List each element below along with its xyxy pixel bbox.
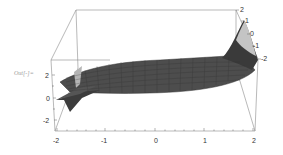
x-tick-label: 0 xyxy=(154,137,158,144)
x-tick-label: -2 xyxy=(53,137,59,144)
z-tick-label: -2 xyxy=(43,117,49,124)
x-tick-label: -1 xyxy=(101,137,107,144)
z-axis-ticks xyxy=(52,75,57,120)
x-tick-label: 2 xyxy=(252,137,256,144)
surface xyxy=(56,20,258,112)
plot-3d[interactable] xyxy=(0,0,283,155)
z-tick-label: 2 xyxy=(45,72,49,79)
y-tick-label: 0 xyxy=(250,30,254,37)
y-tick-label: 1 xyxy=(245,17,249,24)
y-tick-label: -1 xyxy=(253,42,259,49)
x-axis-ticks xyxy=(57,128,253,131)
x-tick-label: 1 xyxy=(203,137,207,144)
z-tick-label: 0 xyxy=(46,95,50,102)
y-tick-label: 2 xyxy=(240,6,244,13)
y-tick-label: -2 xyxy=(261,55,267,62)
